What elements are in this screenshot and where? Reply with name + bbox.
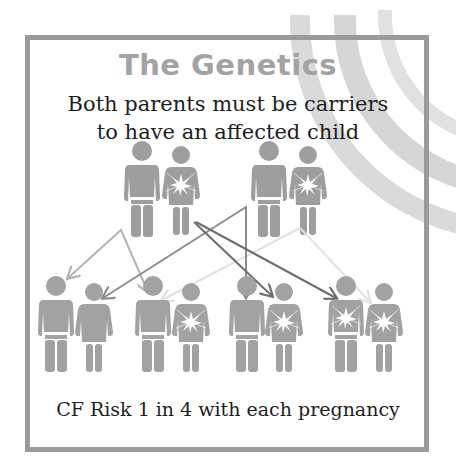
child-pair-4-affected bbox=[328, 276, 403, 372]
inheritance-diagram bbox=[0, 0, 456, 461]
arrow-light-group bbox=[68, 230, 148, 292]
parent-mother-2-carrier bbox=[289, 146, 327, 235]
parent-mother-1-carrier bbox=[162, 146, 200, 235]
parent-father-1 bbox=[124, 141, 160, 237]
child-pair-2-carrier bbox=[135, 276, 210, 372]
child-pair-1-unaffected bbox=[38, 276, 113, 372]
parent-father-2 bbox=[251, 141, 287, 237]
risk-footer: CF Risk 1 in 4 with each pregnancy bbox=[0, 398, 456, 420]
